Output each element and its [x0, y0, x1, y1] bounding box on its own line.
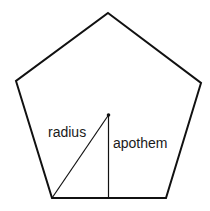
pentagon-diagram: radius apothem	[0, 0, 210, 211]
center-point	[107, 113, 111, 117]
apothem-label: apothem	[113, 135, 167, 151]
radius-label: radius	[48, 124, 86, 140]
